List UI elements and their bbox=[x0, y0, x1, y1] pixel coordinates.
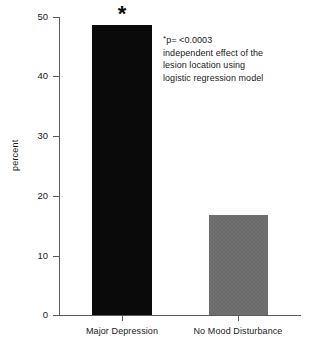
annotation-line-4: logistic regression model bbox=[163, 72, 263, 85]
y-tick-label-40: 40 bbox=[37, 70, 48, 81]
y-tick-label-20: 20 bbox=[37, 190, 48, 201]
x-tick-mark-major-depression bbox=[122, 316, 123, 321]
y-tick-label-10: 10 bbox=[37, 250, 48, 261]
y-tick-label-50: 50 bbox=[37, 11, 48, 22]
bar-chart-figure: percent 50 40 30 20 10 0 * Major Depress… bbox=[0, 0, 309, 347]
x-tick-label-no-mood-disturbance: No Mood Disturbance bbox=[194, 326, 283, 336]
y-tick-40: 40 bbox=[0, 76, 59, 77]
y-tick-mark-40 bbox=[53, 76, 59, 77]
y-tick-mark-0 bbox=[53, 315, 59, 316]
significance-star-icon: * bbox=[118, 3, 127, 25]
x-tick-label-major-depression: Major Depression bbox=[86, 326, 158, 336]
y-tick-mark-50 bbox=[53, 17, 59, 18]
y-tick-mark-30 bbox=[53, 136, 59, 137]
y-axis-line bbox=[59, 17, 60, 315]
y-tick-10: 10 bbox=[0, 256, 59, 257]
bar-no-mood-disturbance bbox=[209, 215, 268, 315]
y-axis-label: percent bbox=[10, 155, 20, 171]
x-axis-line bbox=[59, 315, 301, 316]
y-tick-mark-20 bbox=[53, 196, 59, 197]
y-tick-mark-10 bbox=[53, 256, 59, 257]
y-tick-label-30: 30 bbox=[37, 130, 48, 141]
bar-major-depression bbox=[92, 25, 152, 315]
y-tick-label-0: 0 bbox=[43, 309, 48, 320]
p-value-annotation: *p= <0.0003 independent effect of the le… bbox=[163, 33, 263, 84]
y-tick-0: 0 bbox=[0, 315, 59, 316]
y-tick-30: 30 bbox=[0, 136, 59, 137]
annotation-line-2: independent effect of the bbox=[163, 47, 263, 60]
y-tick-50: 50 bbox=[0, 17, 59, 18]
annotation-line-1-text: p= <0.0003 bbox=[166, 35, 212, 45]
x-tick-mark-no-mood-disturbance bbox=[238, 316, 239, 321]
annotation-line-1: *p= <0.0003 bbox=[163, 33, 263, 47]
annotation-line-3: lesion location using bbox=[163, 59, 263, 72]
y-tick-20: 20 bbox=[0, 196, 59, 197]
